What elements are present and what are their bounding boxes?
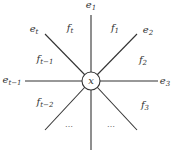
label-f-t-minus-1: ft−1 bbox=[37, 54, 54, 66]
star-graph-diagram: x e1e2e3et−1etftf1f2f3ft−1ft−2⋯⋯ bbox=[0, 0, 173, 155]
label-f-t: ft bbox=[67, 23, 74, 35]
center-node-label: x bbox=[88, 75, 94, 86]
label-f2: f2 bbox=[139, 55, 147, 67]
edge-e2 bbox=[97, 34, 137, 75]
label-f1: f1 bbox=[111, 23, 119, 35]
label-e1: e1 bbox=[86, 0, 96, 12]
ellipsis-right: ⋯ bbox=[107, 122, 116, 131]
label-f3: f3 bbox=[141, 100, 149, 112]
ellipsis-left: ⋯ bbox=[65, 122, 74, 131]
label-e2: e2 bbox=[143, 25, 153, 37]
label-e-t-minus-1: et−1 bbox=[2, 75, 21, 87]
label-e3: e3 bbox=[160, 76, 170, 88]
label-e-t: et bbox=[30, 24, 39, 36]
edge-lower-right bbox=[97, 87, 137, 130]
label-f-t-minus-2: ft−2 bbox=[37, 97, 54, 109]
